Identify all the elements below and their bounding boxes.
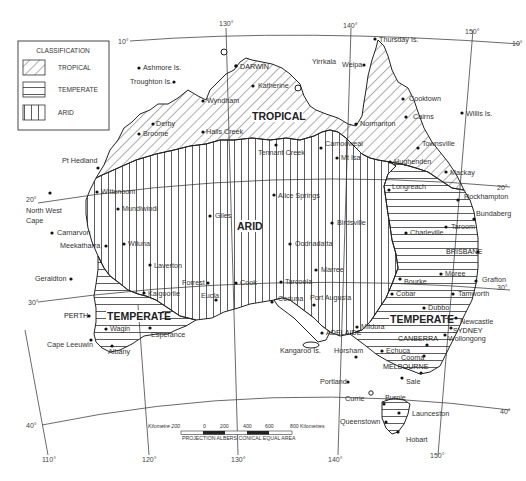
place-north-west-cape-line1: North West [26,206,62,215]
place-katherine: Katherine [258,81,289,90]
scale-tick-800: 800 Kilometres [290,423,325,429]
place-mildura: Mildura [361,322,385,331]
place-perth: PERTH [64,311,88,320]
lat-label-40-left: 40° [26,422,37,429]
place-queenstown: Queenstown [340,417,380,426]
lat-label-10-left: 10° [118,38,129,45]
place-darwin: DARWIN [240,62,269,71]
lon-label-120: 120° [142,456,157,463]
region-label-temperate-east: TEMPERATE [390,313,454,325]
place-esperance: Esperance [151,330,185,339]
place-meekatharra: Meekatharra [60,241,100,250]
place-willis: Willis Is. [466,109,492,118]
lat-label-40-right: 40° [500,408,511,415]
lon-label-150-top: 150° [465,28,480,35]
place-albany: Albany [108,347,130,356]
place-wollongong: Wollongong [448,334,486,343]
temperate-swatch [23,82,45,97]
place-yirrkala: Yirrkala [312,57,336,66]
place-giles: Giles [215,211,232,220]
lat-label-30-left: 30° [28,299,39,306]
legend-label-arid: ARID [58,109,74,116]
longitude-110-line [25,330,48,455]
projection-label: PROJECTION ALBERS CONICAL EQUAL AREA [182,435,296,441]
region-label-temperate-west: TEMPERATE [107,310,171,322]
place-carnarvon: Carnarvon [57,228,91,237]
place-bundaberg: Bundaberg [476,209,511,218]
place-adelaide: ADELAIDE [326,328,362,337]
place-cairns: Cairns [413,112,434,121]
scale-tick-600: 600 [265,423,274,429]
scale-tick-200: 200 [220,423,229,429]
place-longreach: Longreach [392,182,426,191]
place-tamworth: Tamworth [458,289,489,298]
place-halls-creek: Halls Creek [206,127,244,136]
place-wittenoom: Wittenoom [101,187,135,196]
place-bourke: Bourke [404,277,427,286]
place-tennant-creek: Tennant Creek [258,148,305,157]
place-port-augusta: Port Augusta [310,293,351,302]
lat-label-10-right: 10° [512,40,523,47]
lon-label-140-bottom: 140° [328,456,343,463]
place-burnie: Burnie [385,393,406,402]
place-hughenden: Hughenden [394,157,431,166]
scale-bar: Kilometre 200 0 200 400 600 800 Kilometr… [148,423,325,441]
place-cooktown: Cooktown [409,94,441,103]
lon-label-140-top: 140° [343,22,358,29]
place-wyndham: Wyndham [207,96,239,105]
region-label-tropical: TROPICAL [252,110,306,122]
place-cook: Cook [240,278,257,287]
place-cape-leeuwin: Cape Leeuwin [47,340,93,349]
place-ashmore: Ashmore Is. [143,63,181,72]
place-hobart: Hobart [406,435,428,444]
scale-tick-400: 400 [243,423,252,429]
legend-title: CLASSIFICATION [36,47,90,54]
place-cooma: Cooma [401,353,424,362]
place-grafton: Grafton [482,275,506,284]
place-launceston: Launceston [412,409,449,418]
latitude-10-line [130,35,520,44]
place-north-west-cape-line2: Cape [26,216,43,225]
place-mundiwindi: Mundiwindi [122,204,158,213]
place-laverton: Laverton [154,261,182,270]
place-oodnadatta: Oodnadatta [295,239,333,248]
region-label-arid: ARID [237,220,263,232]
lon-label-110: 110° [42,456,56,463]
place-mt-isa: Mt Isa [341,153,361,162]
legend: CLASSIFICATION TROPICAL TEMPERATE ARID [18,41,109,130]
currie-island [369,391,373,395]
place-weipa: Weipa [342,60,362,69]
tasmania [382,398,410,434]
place-wagin: Wagin [110,324,130,333]
place-troughton: Troughton Is. [130,77,172,86]
place-moree: Moree [445,269,465,278]
place-thursday: Thursday Is. [379,35,419,44]
place-melbourne: MELBOURNE [383,362,429,371]
place-kalgoorlie: Kalgoorlie [148,289,180,298]
place-portland: Portland [320,377,347,386]
lat-label-20-left: 20° [26,196,37,203]
place-newcastle: Newcastle [460,317,493,326]
place-cobar: Cobar [396,289,416,298]
place-taroom: Taroom [451,222,475,231]
place-dubbo: Dubbo [428,303,449,312]
place-birdsville: Birdsville [337,218,366,227]
legend-label-tropical: TROPICAL [58,64,91,71]
scale-tick-0: 0 [203,423,206,429]
lon-label-130-top: 130° [219,20,234,27]
place-eucla: Eucla [201,291,219,300]
australia-climate-map: CLASSIFICATION TROPICAL TEMPERATE ARID T… [0,0,526,481]
arid-swatch [23,105,45,120]
place-broome: Broome [143,129,168,138]
place-horsham: Horsham [334,346,363,355]
place-canberra: CANBERRA [398,334,438,343]
place-tarcoola: Tarcoola [285,277,312,286]
place-kangaroo: Kangaroo Is. [280,346,321,355]
melville-island [221,49,227,55]
place-sale: Sale [406,377,420,386]
place-geraldton: Geraldton [35,274,67,283]
place-mackay: Mackay [450,168,475,177]
groote-island [295,85,301,91]
lat-label-20-right: 20° [497,184,508,191]
place-normanton: Normanton [360,119,396,128]
